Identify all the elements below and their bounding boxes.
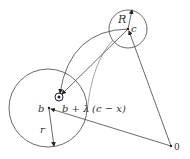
origin-to-c-arrow <box>129 31 171 146</box>
outer-arc <box>87 40 113 112</box>
vector-diagram: R c b r 0 b + λ (c − x) <box>0 0 190 159</box>
c-to-x-arrow <box>62 29 128 94</box>
label-R: R <box>117 13 126 26</box>
label-c: c <box>131 23 137 34</box>
label-expr-paren: (c − x) <box>92 103 126 114</box>
label-expr-b: b + λ <box>62 103 89 114</box>
radius-r-arrow <box>49 109 54 146</box>
label-r: r <box>40 124 46 135</box>
label-origin: 0 <box>174 142 180 152</box>
point-c <box>127 28 129 30</box>
label-b: b <box>38 103 44 114</box>
point-x <box>58 96 61 99</box>
point-b <box>48 107 50 109</box>
point-origin <box>170 145 172 147</box>
